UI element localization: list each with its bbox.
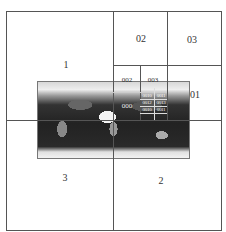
split-horizontal-l1 <box>6 120 222 121</box>
split-vertical-l1 <box>113 11 114 231</box>
tile-label-2: 2 <box>159 175 164 186</box>
tile-label-02: 02 <box>136 33 146 44</box>
tile-label-l4-5: 0011 <box>157 107 166 112</box>
tile-label-1: 1 <box>64 59 69 70</box>
split-vertical-l4 <box>154 88 155 120</box>
tile-label-l4-2: 0012 <box>143 100 152 105</box>
tile-label-000: 000 <box>122 102 133 110</box>
tile-label-01: 01 <box>190 89 200 100</box>
split-horizontal-l4c <box>140 113 167 114</box>
tile-label-003: 003 <box>148 76 159 84</box>
tile-label-l4-4: 0010 <box>143 107 152 112</box>
tile-label-l4-0: 0010 <box>143 93 152 98</box>
tile-label-002: 002 <box>122 76 133 84</box>
tile-label-3: 3 <box>63 172 68 183</box>
split-horizontal-l2 <box>113 65 222 66</box>
tile-label-l4-1: 0011 <box>157 93 166 98</box>
tile-label-l4-3: 0013 <box>157 100 166 105</box>
tile-label-03: 03 <box>187 34 197 45</box>
